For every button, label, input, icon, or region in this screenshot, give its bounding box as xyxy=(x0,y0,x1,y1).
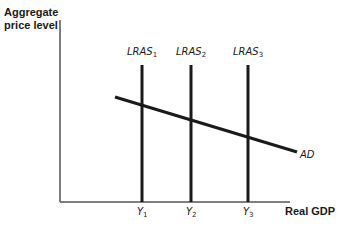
lras-1-label: LRAS1 xyxy=(127,46,157,61)
diagram-canvas xyxy=(0,0,344,225)
ad-label: AD xyxy=(300,149,315,161)
lras-3-label-sub: 3 xyxy=(259,51,263,59)
lras-3-label-text: LRAS xyxy=(233,46,259,57)
lras-2-label-text: LRAS xyxy=(176,46,202,57)
y2-tick-sub: 2 xyxy=(192,211,196,219)
y1-tick-sub: 1 xyxy=(143,211,147,219)
y2-tick-label: Y2 xyxy=(186,206,197,221)
x-axis-title: Real GDP xyxy=(285,205,335,218)
y3-tick-label: Y3 xyxy=(243,206,254,221)
ad-lras-diagram: Aggregate price level Real GDP LRAS1 LRA… xyxy=(0,0,344,225)
lras-2-label: LRAS2 xyxy=(176,46,206,61)
y-axis-title-line1: Aggregate xyxy=(4,6,58,19)
lras-1-label-sub: 1 xyxy=(153,51,157,59)
y3-tick-sub: 3 xyxy=(249,211,253,219)
y1-tick-label: Y1 xyxy=(137,206,148,221)
lras-2-label-sub: 2 xyxy=(202,51,206,59)
y-axis-title-line2: price level xyxy=(4,19,58,32)
lras-3-label: LRAS3 xyxy=(233,46,263,61)
lras-1-label-text: LRAS xyxy=(127,46,153,57)
y-axis-title: Aggregate price level xyxy=(4,6,58,32)
